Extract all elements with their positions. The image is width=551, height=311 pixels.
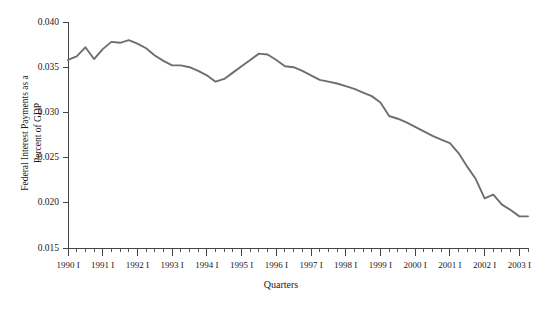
y-axis-ticks xyxy=(63,22,68,248)
x-tick-label: 1992 I xyxy=(126,260,149,270)
x-tick-label: 1990 I xyxy=(56,260,79,270)
y-tick-label: 0.035 xyxy=(38,62,60,72)
x-tick-label: 1993 I xyxy=(161,260,184,270)
y-tick-label: 0.020 xyxy=(38,197,60,207)
x-tick-label: 2002 I xyxy=(473,260,496,270)
y-tick-label: 0.040 xyxy=(38,17,60,27)
x-tick-label: 1998 I xyxy=(334,260,357,270)
x-axis-title: Quarters xyxy=(264,279,299,290)
data-series-line xyxy=(68,40,528,216)
x-tick-label: 1995 I xyxy=(230,260,253,270)
x-tick-label: 2003 I xyxy=(508,260,531,270)
y-axis-title-line2: Percent of GDP xyxy=(33,103,43,163)
line-chart: 0.0150.0200.0250.0300.0350.040 1990 I199… xyxy=(0,0,551,311)
x-axis-tick-labels: 1990 I1991 I1992 I1993 I1994 I1995 I1996… xyxy=(56,260,531,270)
x-tick-label: 2000 I xyxy=(404,260,427,270)
y-axis-title: Federal Interest Payments as a Percent o… xyxy=(20,74,43,190)
y-axis-title-line1: Federal Interest Payments as a xyxy=(20,74,30,190)
x-tick-label: 1994 I xyxy=(195,260,218,270)
chart-figure: 0.0150.0200.0250.0300.0350.040 1990 I199… xyxy=(0,0,551,311)
y-tick-label: 0.015 xyxy=(38,243,60,253)
x-axis-ticks xyxy=(68,248,528,256)
x-tick-label: 2001 I xyxy=(438,260,461,270)
x-tick-label: 1997 I xyxy=(299,260,322,270)
x-tick-label: 1996 I xyxy=(265,260,288,270)
x-tick-label: 1999 I xyxy=(369,260,392,270)
x-tick-label: 1991 I xyxy=(91,260,114,270)
